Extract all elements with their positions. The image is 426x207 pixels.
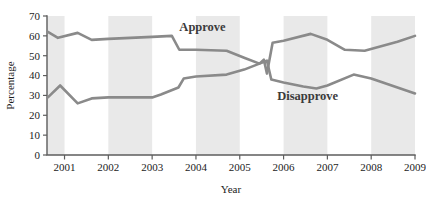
- shaded-band: [196, 16, 240, 155]
- x-tick-label: 2001: [54, 161, 76, 173]
- y-tick-label: 0: [35, 149, 41, 161]
- y-tick-label: 50: [29, 50, 41, 62]
- series-label-approve: Approve: [179, 20, 226, 34]
- chart-canvas: 010203040506070 200120022003200420052006…: [0, 0, 426, 207]
- y-tick-label: 40: [29, 69, 41, 81]
- y-tick-label: 60: [29, 30, 41, 42]
- x-tick-label: 2009: [404, 161, 426, 173]
- y-tick-label: 20: [29, 109, 41, 121]
- recession-shaded-bands: [47, 16, 415, 155]
- y-tick-label: 70: [29, 10, 41, 22]
- y-axis-title: Percentage: [4, 61, 16, 109]
- line-chart: 010203040506070 200120022003200420052006…: [0, 0, 426, 207]
- series-label-disapprove: Disapprove: [277, 89, 338, 103]
- x-tick-label: 2007: [316, 161, 339, 173]
- x-tick-label: 2005: [229, 161, 252, 173]
- y-tick-label: 10: [29, 129, 41, 141]
- y-tick-label: 30: [29, 89, 41, 101]
- x-tick-label: 2004: [185, 161, 208, 173]
- x-axis-title: Year: [221, 183, 242, 195]
- x-axis-tick-labels: 200120022003200420052006200720082009: [54, 161, 426, 173]
- y-axis-tick-labels: 010203040506070: [29, 10, 41, 161]
- x-tick-label: 2006: [273, 161, 296, 173]
- x-tick-label: 2003: [141, 161, 164, 173]
- x-tick-label: 2008: [360, 161, 383, 173]
- x-tick-label: 2002: [97, 161, 119, 173]
